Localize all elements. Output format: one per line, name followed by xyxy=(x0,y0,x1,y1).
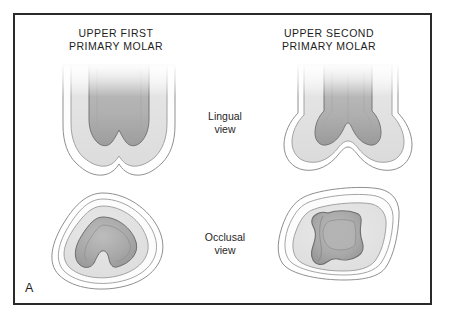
column-title-upper-first: UPPER FIRST PRIMARY MOLAR xyxy=(33,27,199,53)
column-title-upper-second: UPPER SECOND PRIMARY MOLAR xyxy=(243,27,415,53)
figure-plate: UPPER FIRST PRIMARY MOLAR UPPER SECOND P… xyxy=(13,13,432,305)
tooth-illustration-first-molar-occlusal xyxy=(41,187,186,297)
panel-letter: A xyxy=(25,281,33,295)
tooth-illustration-second-molar-occlusal xyxy=(268,183,418,298)
row-label-occlusal-view: Occlusal view xyxy=(188,231,262,257)
root-fade-mask xyxy=(37,63,187,97)
root-fade-mask xyxy=(268,63,418,97)
tooth-illustration-first-molar-lingual xyxy=(37,63,187,183)
pulp-inner-shading xyxy=(323,220,356,250)
row-label-lingual-view: Lingual view xyxy=(188,110,262,136)
tooth-illustration-second-molar-lingual xyxy=(268,63,418,183)
